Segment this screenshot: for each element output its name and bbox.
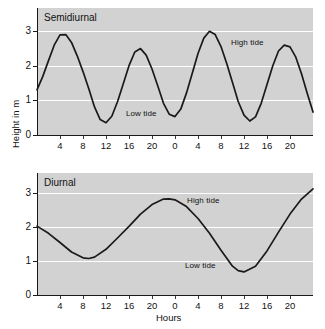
x-tick-label-semidiurnal-4: 20: [142, 141, 162, 151]
x-tick-mark-diurnal-6: [198, 296, 199, 299]
y-tick-mark-diurnal-2: [33, 227, 37, 228]
y-tick-label-semidiurnal-2: 2: [20, 61, 31, 71]
x-tick-mark-semidiurnal-2: [106, 136, 107, 139]
panel-title-semidiurnal: Semidiurnal: [44, 12, 97, 23]
x-tick-mark-diurnal-4: [152, 296, 153, 299]
y-tick-mark-diurnal-1: [33, 261, 37, 262]
x-tick-label-semidiurnal-1: 8: [73, 141, 93, 151]
x-tick-label-semidiurnal-8: 12: [234, 141, 254, 151]
x-tick-mark-semidiurnal-5: [175, 136, 176, 139]
x-tick-mark-diurnal-3: [129, 296, 130, 299]
x-tick-label-diurnal-4: 20: [142, 301, 162, 311]
x-tick-label-diurnal-9: 16: [257, 301, 277, 311]
x-tick-mark-semidiurnal-7: [221, 136, 222, 139]
x-tick-label-semidiurnal-5: 0: [165, 141, 185, 151]
annotation-high-tide-diurnal: High tide: [187, 196, 219, 205]
y-tick-label-diurnal-0: 0: [20, 290, 31, 300]
y-tick-mark-semidiurnal-3: [33, 31, 37, 32]
x-tick-label-diurnal-6: 4: [188, 301, 208, 311]
x-tick-mark-diurnal-5: [175, 296, 176, 299]
annotation-low-tide-semidiurnal: Low tide: [126, 109, 157, 118]
x-tick-label-diurnal-0: 4: [50, 301, 70, 311]
panel-semidiurnal: 0 1 2 3 4 8 12 16 20 0 4 8 12 16 20 Semi…: [0, 0, 325, 160]
x-tick-label-semidiurnal-6: 4: [188, 141, 208, 151]
y-tick-mark-diurnal-3: [33, 193, 37, 194]
x-tick-mark-semidiurnal-10: [290, 136, 291, 139]
x-tick-label-diurnal-8: 12: [234, 301, 254, 311]
x-tick-mark-diurnal-8: [244, 296, 245, 299]
y-axis-line-diurnal: [37, 173, 38, 296]
annotation-high-tide-semidiurnal: High tide: [231, 38, 263, 47]
x-tick-label-diurnal-2: 12: [96, 301, 116, 311]
x-axis-title: Hours: [156, 312, 181, 323]
y-tick-mark-semidiurnal-0: [33, 135, 37, 136]
panel-title-diurnal: Diurnal: [44, 177, 76, 188]
x-tick-mark-semidiurnal-4: [152, 136, 153, 139]
x-tick-mark-semidiurnal-8: [244, 136, 245, 139]
x-tick-label-diurnal-5: 0: [165, 301, 185, 311]
x-tick-label-semidiurnal-9: 16: [257, 141, 277, 151]
x-tick-label-diurnal-7: 8: [211, 301, 231, 311]
x-tick-mark-semidiurnal-6: [198, 136, 199, 139]
x-tick-label-semidiurnal-0: 4: [50, 141, 70, 151]
x-tick-label-semidiurnal-2: 12: [96, 141, 116, 151]
y-tick-label-semidiurnal-3: 3: [20, 26, 31, 36]
x-tick-label-diurnal-1: 8: [73, 301, 93, 311]
x-tick-label-diurnal-10: 20: [280, 301, 300, 311]
x-tick-mark-diurnal-1: [83, 296, 84, 299]
x-tick-mark-diurnal-0: [60, 296, 61, 299]
y-axis-line-semidiurnal: [37, 8, 38, 136]
x-tick-mark-semidiurnal-3: [129, 136, 130, 139]
x-tick-mark-semidiurnal-0: [60, 136, 61, 139]
x-tick-label-semidiurnal-3: 16: [119, 141, 139, 151]
panel-diurnal: 0 1 2 3 4 8 12 16 20 0 4 8 12 16 20 Diur…: [0, 165, 325, 329]
y-tick-label-diurnal-1: 1: [20, 256, 31, 266]
y-tick-mark-diurnal-0: [33, 295, 37, 296]
x-tick-mark-diurnal-2: [106, 296, 107, 299]
y-tick-label-diurnal-2: 2: [20, 222, 31, 232]
x-tick-mark-diurnal-9: [267, 296, 268, 299]
y-tick-mark-semidiurnal-2: [33, 66, 37, 67]
x-tick-mark-diurnal-10: [290, 296, 291, 299]
x-tick-mark-diurnal-7: [221, 296, 222, 299]
x-tick-mark-semidiurnal-9: [267, 136, 268, 139]
y-tick-label-semidiurnal-1: 1: [20, 95, 31, 105]
annotation-low-tide-diurnal: Low tide: [185, 261, 216, 270]
y-tick-label-diurnal-3: 3: [20, 188, 31, 198]
x-tick-label-semidiurnal-10: 20: [280, 141, 300, 151]
x-tick-label-semidiurnal-7: 8: [211, 141, 231, 151]
y-tick-label-semidiurnal-0: 0: [20, 130, 31, 140]
y-tick-mark-semidiurnal-1: [33, 100, 37, 101]
tide-chart-figure: Height in m 0 1 2 3: [0, 0, 325, 329]
x-tick-label-diurnal-3: 16: [119, 301, 139, 311]
x-tick-mark-semidiurnal-1: [83, 136, 84, 139]
